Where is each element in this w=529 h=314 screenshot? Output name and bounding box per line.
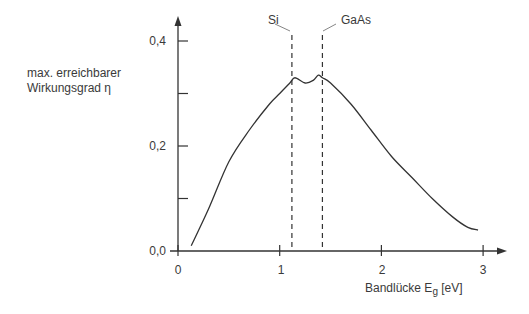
y-tick-label-0.0: 0,0: [126, 244, 166, 258]
y-tick-label-0.2: 0,2: [126, 139, 166, 153]
x-axis-label-unit: [eV]: [438, 281, 463, 295]
annotation-si: Si: [268, 13, 279, 27]
y-tick-label-0.4: 0,4: [126, 34, 166, 48]
leader-line-gaas: [323, 24, 336, 31]
axis-ticks: [178, 41, 483, 256]
x-tick-label-1: 1: [271, 263, 291, 277]
y-axis-label-line1: max. erreichbarer: [27, 66, 121, 80]
x-tick-label-0: 0: [168, 263, 188, 277]
material-markers: [275, 24, 336, 251]
efficiency-curve: [191, 75, 478, 246]
x-axis-arrow-icon: [497, 248, 507, 255]
x-tick-label-3: 3: [473, 263, 493, 277]
annotation-gaas: GaAs: [341, 13, 371, 27]
y-axis-label-line2: Wirkungsgrad η: [27, 81, 111, 95]
efficiency-chart: [0, 0, 529, 314]
y-axis-arrow-icon: [175, 16, 182, 26]
x-tick-label-2: 2: [372, 263, 392, 277]
x-axis-label: Bandlücke Eg [eV]: [365, 281, 463, 299]
x-axis-label-main: Bandlücke E: [365, 281, 432, 295]
